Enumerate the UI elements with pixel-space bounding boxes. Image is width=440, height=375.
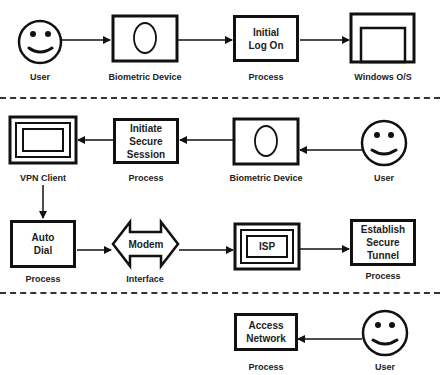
window-icon xyxy=(351,14,414,62)
process-label: Process xyxy=(248,72,283,82)
process-text: Initiate Secure Session xyxy=(127,122,165,161)
isp-text: ISP xyxy=(247,240,287,253)
initiate-secure-session-process-box[interactable]: Initiate Secure Session xyxy=(113,118,179,164)
process-label: Process xyxy=(25,274,60,284)
section-divider xyxy=(0,97,440,99)
biometric-device-icon xyxy=(234,119,298,164)
auto-dial-process-box[interactable]: Auto Dial xyxy=(10,220,76,268)
smiley-icon xyxy=(363,311,407,355)
process-text: Initial Log On xyxy=(249,26,284,52)
windows-os-label: Windows O/S xyxy=(354,72,411,82)
establish-secure-tunnel-process-box[interactable]: Establish Secure Tunnel xyxy=(350,219,416,266)
process-label: Process xyxy=(365,271,400,281)
modem-text: Modem xyxy=(122,238,170,251)
biometric-device-label: Biometric Device xyxy=(229,173,302,183)
initial-logon-process-box[interactable]: Initial Log On xyxy=(233,15,299,62)
smiley-icon xyxy=(362,121,406,165)
interface-label: Interface xyxy=(126,274,164,284)
biometric-device-label: Biometric Device xyxy=(108,72,181,82)
section-divider xyxy=(0,292,440,294)
biometric-device-icon xyxy=(113,16,177,61)
user-label: User xyxy=(374,173,394,183)
vpn-client-label: VPN Client xyxy=(20,173,66,183)
diagram-canvas xyxy=(0,0,440,375)
user-label: User xyxy=(375,362,395,372)
process-label: Process xyxy=(248,362,283,372)
user-label: User xyxy=(30,72,50,82)
process-text: Establish Secure Tunnel xyxy=(361,223,405,262)
process-text: Access Network xyxy=(246,319,285,345)
process-text: Auto Dial xyxy=(32,231,55,257)
process-label: Process xyxy=(128,173,163,183)
smiley-icon xyxy=(19,21,61,63)
access-network-process-box[interactable]: Access Network xyxy=(234,313,298,351)
nested-window-icon xyxy=(10,117,76,163)
